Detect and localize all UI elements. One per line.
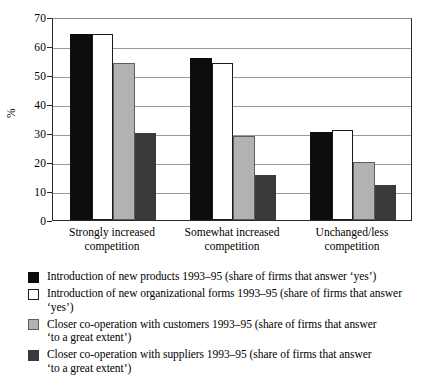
legend-item-label: Closer co-operation with customers 1993–…	[47, 318, 377, 345]
y-axis-tick-label: 60	[20, 42, 46, 52]
bar	[310, 132, 332, 220]
black-square-swatch	[28, 272, 39, 283]
y-axis-tick-label: 40	[20, 100, 46, 110]
y-axis-tick-mark	[47, 47, 52, 48]
legend-item-label-line: Introduction of new products 1993–95 (sh…	[47, 270, 376, 284]
y-axis-tick-mark	[47, 221, 52, 222]
bar	[212, 63, 234, 220]
legend-item-label-line: Introduction of new organizational forms…	[47, 287, 426, 314]
legend-item-label-line: ‘to a great extent’)	[47, 362, 372, 376]
x-axis-category-label-line: competition	[52, 240, 172, 254]
legend-item-label-line: Closer co-operation with customers 1993–…	[47, 318, 377, 332]
bar	[332, 130, 354, 220]
bar	[233, 136, 255, 220]
x-axis-category-label-line: competition	[172, 240, 292, 254]
y-axis-tick-label: 0	[20, 216, 46, 226]
legend-item-label-line: ‘to a great extent’)	[47, 331, 377, 345]
chart-legend: Introduction of new products 1993–95 (sh…	[28, 270, 426, 377]
legend-item-label: Introduction of new organizational forms…	[47, 287, 426, 314]
legend-item-label: Introduction of new products 1993–95 (sh…	[47, 270, 376, 284]
y-axis-tick-label: 10	[20, 187, 46, 197]
y-axis-tick-label: 30	[20, 129, 46, 139]
x-axis-category-label-line: Strongly increased	[52, 226, 172, 240]
x-axis-category-label: Somewhat increasedcompetition	[172, 226, 292, 253]
x-axis-category-label: Strongly increasedcompetition	[52, 226, 172, 253]
bar	[92, 34, 114, 220]
legend-item: Closer co-operation with customers 1993–…	[28, 318, 426, 345]
light-gray-square-swatch	[28, 319, 39, 330]
y-axis-tick-label: 20	[20, 158, 46, 168]
y-axis-tick-mark	[47, 18, 52, 19]
x-axis-category-label-line: Unchanged/less	[292, 226, 412, 240]
x-axis-category-label: Unchanged/lesscompetition	[292, 226, 412, 253]
dark-gray-square-swatch	[28, 350, 39, 361]
y-axis-tick-mark	[47, 192, 52, 193]
y-axis-tick-label: 50	[20, 71, 46, 81]
y-axis-tick-mark	[47, 105, 52, 106]
legend-item: Introduction of new organizational forms…	[28, 287, 426, 314]
white-square-swatch	[28, 289, 39, 300]
bar	[353, 162, 375, 220]
y-axis-tick-mark	[47, 134, 52, 135]
x-axis-category-label-line: Somewhat increased	[172, 226, 292, 240]
bar	[190, 58, 212, 220]
bar	[135, 133, 157, 220]
y-axis-tick-mark	[47, 76, 52, 77]
bar	[70, 34, 92, 220]
y-axis-tick-label: 70	[20, 13, 46, 23]
legend-item-label: Closer co-operation with suppliers 1993–…	[47, 348, 372, 375]
legend-item: Closer co-operation with suppliers 1993–…	[28, 348, 426, 375]
bar	[113, 63, 135, 220]
x-axis-category-label-line: competition	[292, 240, 412, 254]
plot-area	[52, 18, 412, 221]
y-axis-tick-labels: 010203040506070	[14, 18, 46, 221]
legend-item: Introduction of new products 1993–95 (sh…	[28, 270, 426, 284]
y-axis-tick-mark	[47, 163, 52, 164]
bar	[375, 185, 397, 220]
legend-item-label-line: Closer co-operation with suppliers 1993–…	[47, 348, 372, 362]
bar	[255, 175, 277, 220]
